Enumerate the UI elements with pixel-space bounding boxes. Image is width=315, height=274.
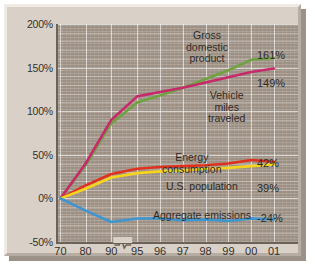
chart-panel: 200%150%100%50%0%-50% Gross domestic pro… bbox=[4, 4, 301, 256]
end-label-vehicle-miles-traveled: 149% bbox=[257, 77, 285, 89]
chart-figure: 200%150%100%50%0%-50% Gross domestic pro… bbox=[0, 0, 315, 274]
axis-break-mask bbox=[113, 237, 132, 243]
end-label-gross-domestic-product: 161% bbox=[257, 49, 285, 61]
end-label-u-s-population: 39% bbox=[257, 182, 279, 194]
end-label-energy-consumption: 42% bbox=[257, 157, 279, 169]
end-label-aggregate-emissions: -24% bbox=[257, 212, 283, 224]
